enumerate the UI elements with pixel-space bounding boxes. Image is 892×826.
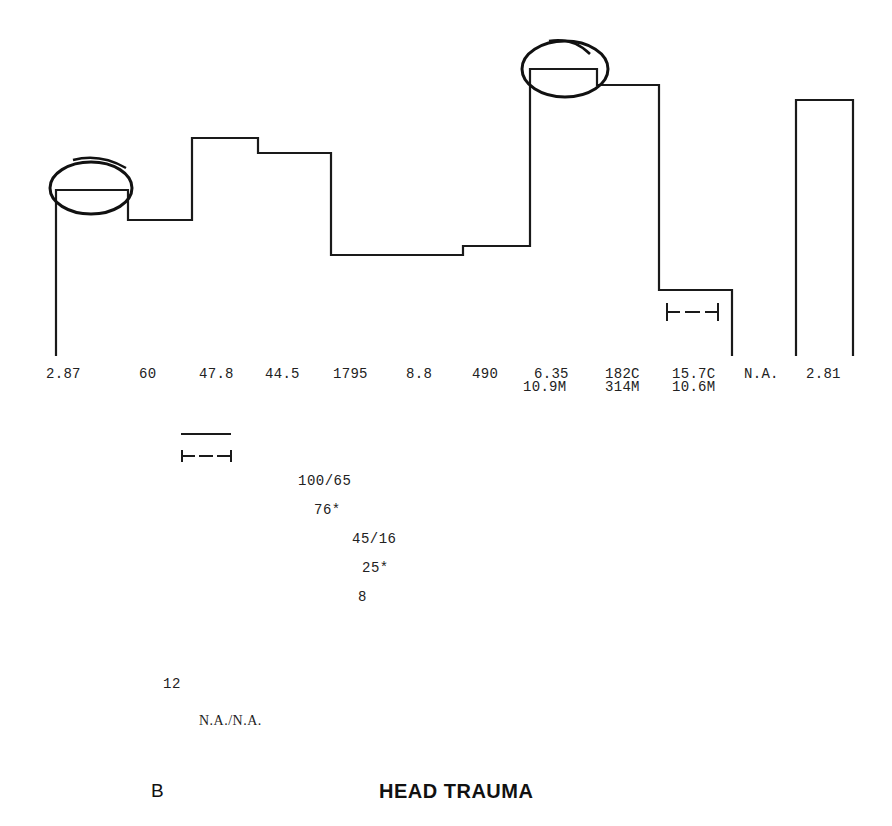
bar-2-81 xyxy=(796,100,853,356)
annotation-text: 25* xyxy=(362,561,389,575)
category-sublabel: 10.9M xyxy=(523,380,567,394)
figure-canvas: 2.87 60 47.8 44.5 1795 8.8 490 6.35 182C… xyxy=(0,0,892,826)
annotation-text: N.A./N.A. xyxy=(199,714,262,728)
category-label: 8.8 xyxy=(406,367,432,381)
category-label: N.A. xyxy=(744,367,779,381)
annotation-text: 100/65 xyxy=(298,474,351,488)
chart-plot xyxy=(0,0,892,826)
category-label: 44.5 xyxy=(265,367,300,381)
category-label: 490 xyxy=(472,367,498,381)
annotation-text: 12 xyxy=(163,677,181,691)
category-label: 60 xyxy=(139,367,156,381)
chart-title: HEAD TRAUMA xyxy=(379,780,533,803)
annotation-text: 45/16 xyxy=(352,532,397,546)
category-sublabel: 10.6M xyxy=(672,380,716,394)
legend-range-bracket-icon xyxy=(182,450,231,462)
category-label: 47.8 xyxy=(199,367,234,381)
annotation-text: 76* xyxy=(314,503,341,517)
category-sublabel: 314M xyxy=(605,380,640,394)
annotation-text: 8 xyxy=(358,590,367,604)
category-label: 2.87 xyxy=(46,367,81,381)
category-label: 2.81 xyxy=(806,367,841,381)
range-bracket-icon xyxy=(667,303,718,321)
panel-letter: B xyxy=(151,780,164,802)
step-line xyxy=(56,69,732,356)
highlight-ellipse-icon xyxy=(50,158,132,214)
category-label: 1795 xyxy=(333,367,368,381)
